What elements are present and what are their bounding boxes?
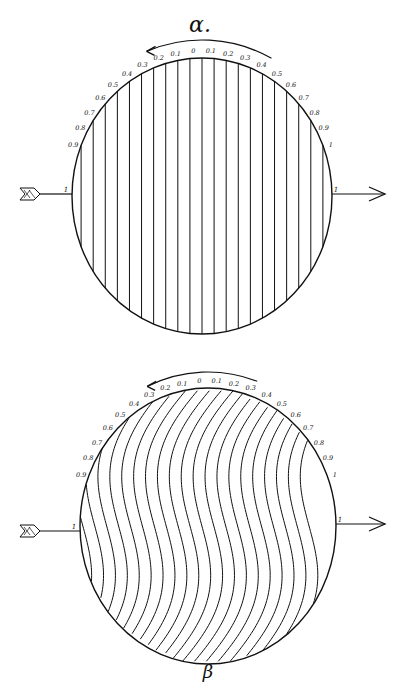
scale-label: 0.7 (84, 109, 95, 117)
scale-label: 0.2 (223, 50, 233, 58)
hatch-curve (122, 402, 153, 628)
scale-label: 0.9 (323, 454, 333, 462)
right-unit-label: 1 (334, 186, 338, 194)
scale-label: 0.8 (314, 439, 324, 447)
scale-label: 0.4 (122, 70, 132, 78)
scale-label: 0.9 (68, 141, 78, 149)
scale-label: 0.5 (272, 70, 282, 78)
scale-label: 0.5 (115, 411, 125, 419)
hatch-curve (156, 391, 209, 650)
scale-label: 0.3 (240, 54, 250, 62)
hatch-curve (230, 410, 277, 661)
scale-label: 0.4 (256, 61, 266, 69)
scale-label: 0.6 (286, 81, 296, 89)
scale-label: 0.1 (206, 47, 216, 55)
left-unit-label: 1 (72, 523, 76, 531)
hatch-curve (148, 391, 197, 645)
caption-alpha: α. (189, 12, 211, 37)
arrowhead-icon (147, 381, 156, 390)
hatch-curve (218, 407, 267, 661)
scale-label: 0.9 (76, 471, 86, 479)
scale-label: 0.5 (108, 81, 118, 89)
hatch-curve (98, 449, 116, 612)
hatch-curve (263, 424, 294, 650)
arrow-fletching-icon (20, 188, 40, 200)
scale-label: 0.4 (262, 391, 272, 399)
left-unit-label: 1 (64, 186, 68, 194)
wavy-line-set (81, 391, 318, 661)
scale-label: 0.1 (177, 380, 187, 388)
scale-label: 0.6 (103, 424, 113, 432)
scale-label: 0.2 (154, 54, 164, 62)
panel-alpha: α. 0.90.80.70.60.50.40.30.20.100.10.20.3… (20, 12, 385, 334)
arrow-fletching-icon (20, 525, 40, 537)
scale-label: 0.3 (245, 384, 255, 392)
diagram-canvas: α. 0.90.80.70.60.50.40.30.20.100.10.20.3… (0, 0, 402, 691)
scale-label: 0 (191, 47, 195, 55)
scale-label: 0.7 (303, 424, 314, 432)
scale-label: 0.3 (137, 61, 147, 69)
scale-label: 0.7 (92, 439, 103, 447)
scale-label: 0.6 (95, 94, 105, 102)
scale-label: 0.7 (298, 94, 309, 102)
scale-label: 0.8 (75, 124, 85, 132)
right-unit-label: 1 (338, 516, 342, 524)
scale-label: 0 (197, 377, 201, 385)
scale-label: 0.5 (277, 400, 287, 408)
scale-label: 1 (329, 141, 333, 149)
scale-label: 0.1 (171, 50, 181, 58)
hatch-curve (206, 402, 259, 661)
scale-label: 0.3 (144, 391, 154, 399)
scale-label: 0.9 (318, 124, 328, 132)
scale-label: 0.2 (160, 384, 170, 392)
scale-label: 0.4 (129, 400, 139, 408)
scale-label: 1 (333, 471, 337, 479)
scale-label: 0.6 (291, 411, 301, 419)
panel-beta: β 0.90.80.70.60.50.40.30.20.100.10.20.30… (20, 372, 385, 682)
scale-label: 0.2 (229, 380, 239, 388)
scale-label: 0.1 (212, 377, 222, 385)
straight-line-set (81, 58, 323, 334)
hatch-curve (300, 440, 318, 603)
scale-label: 0.8 (83, 454, 93, 462)
scale-label: 0.8 (309, 109, 319, 117)
